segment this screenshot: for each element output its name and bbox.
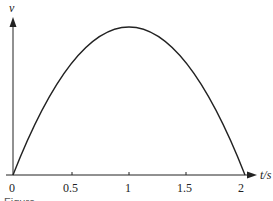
- velocity-curve: [13, 27, 245, 175]
- y-axis-arrow-icon: [10, 17, 17, 27]
- figure-caption: Figure: [4, 196, 35, 201]
- tick-label-2: 2: [238, 181, 244, 195]
- tick-label-0: 0: [9, 181, 15, 195]
- x-axis-arrow-icon: [247, 172, 257, 179]
- x-axis-label: t/s: [260, 168, 272, 182]
- tick-label-0.5: 0.5: [63, 181, 78, 195]
- velocity-time-graph: v t/s 0 0.5 1 1.5 2 Figure: [0, 0, 273, 201]
- y-axis-label: v: [9, 1, 15, 15]
- tick-label-1: 1: [125, 181, 131, 195]
- tick-label-1.5: 1.5: [177, 181, 192, 195]
